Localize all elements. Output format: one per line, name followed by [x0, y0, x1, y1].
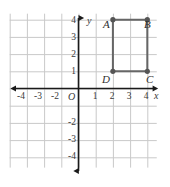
x-axis-label: x — [154, 91, 158, 101]
x-tick-label-1: 1 — [90, 92, 100, 102]
vertex-label-b: B — [144, 19, 151, 30]
vertex-label-c: C — [146, 74, 153, 85]
origin-label: O — [68, 92, 75, 102]
y-tick-label-4: 4 — [66, 16, 76, 26]
coordinate-plane-figure: y x O -4 -3 -2 1 2 3 4 4 3 2 1 -2 -3 -4 … — [0, 0, 170, 187]
y-axis-label: y — [87, 16, 91, 26]
y-tick-label-neg4: -4 — [62, 152, 76, 162]
vertex-point-d — [110, 69, 115, 74]
y-tick-label-neg3: -3 — [62, 135, 76, 145]
x-tick-label-neg2: -2 — [48, 92, 62, 102]
vertex-label-d: D — [102, 74, 110, 85]
y-tick-label-2: 2 — [66, 50, 76, 60]
y-tick-label-1: 1 — [66, 67, 76, 77]
y-tick-label-neg2: -2 — [62, 118, 76, 128]
y-tick-label-3: 3 — [66, 33, 76, 43]
vertex-label-a: A — [103, 19, 110, 30]
x-tick-label-4: 4 — [141, 92, 151, 102]
x-tick-label-3: 3 — [124, 92, 134, 102]
x-tick-label-neg3: -3 — [31, 92, 45, 102]
vertex-point-a — [110, 17, 115, 22]
x-tick-label-neg4: -4 — [14, 92, 28, 102]
x-tick-label-2: 2 — [107, 92, 117, 102]
rectangle-abcd-outline — [113, 20, 147, 72]
